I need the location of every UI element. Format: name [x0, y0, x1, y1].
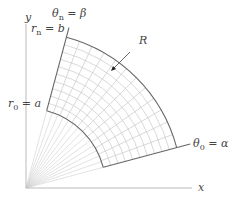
theta-n-label: θn = β	[52, 8, 86, 22]
theta-0-label: θ0 = α	[193, 138, 228, 152]
region-pointer	[111, 52, 130, 71]
r-n-label: rn = b	[31, 23, 65, 37]
r-0-label: r0 = a	[8, 98, 41, 112]
x-axis-label: x	[198, 182, 204, 193]
region-label: R	[139, 35, 147, 46]
